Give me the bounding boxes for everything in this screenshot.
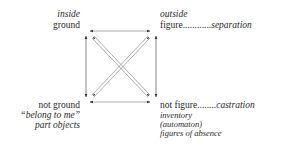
semiotic-square: [0, 0, 290, 154]
